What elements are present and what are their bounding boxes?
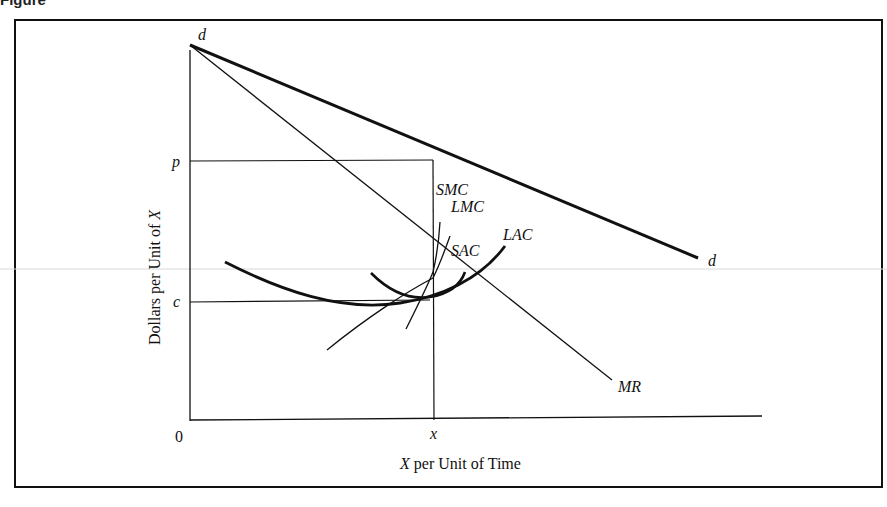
demand-label-end: d <box>708 252 717 269</box>
x-axis <box>190 416 762 420</box>
lmc-curve <box>327 236 450 350</box>
lmc-label: LMC <box>450 198 484 215</box>
sac-label: SAC <box>451 242 480 259</box>
price-guide-line <box>190 160 433 161</box>
economics-diagram: d d p c 0 x SMC LMC SAC LAC MR X per Uni… <box>0 0 887 507</box>
demand-label-top: d <box>198 26 207 43</box>
quantity-label: x <box>429 425 437 442</box>
cost-label: c <box>173 293 180 310</box>
demand-curve <box>190 45 698 258</box>
lac-label: LAC <box>502 226 533 243</box>
mr-label: MR <box>617 378 641 395</box>
marginal-revenue-curve <box>190 45 612 380</box>
x-axis-rest: per Unit of Time <box>410 455 521 473</box>
price-label: p <box>171 153 180 171</box>
quantity-guide-line <box>433 160 434 420</box>
smc-label: SMC <box>436 181 468 198</box>
y-axis-rest: Dollars per Unit of <box>146 220 164 345</box>
x-axis-title: X per Unit of Time <box>399 455 521 473</box>
sac-curve <box>371 272 465 298</box>
y-axis-title: Dollars per Unit of X <box>146 209 164 345</box>
y-axis-var: X <box>146 209 163 221</box>
origin-label: 0 <box>175 428 183 445</box>
